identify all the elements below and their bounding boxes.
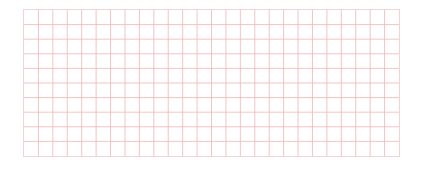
grid-lines — [24, 10, 399, 156]
graph-paper-grid — [23, 9, 400, 157]
